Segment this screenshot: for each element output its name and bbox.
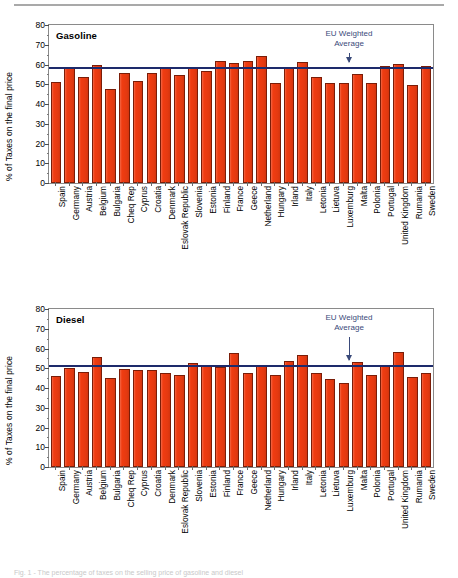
gasoline-x-tick-mark — [288, 182, 289, 186]
gasoline-y-tick-minor — [47, 35, 49, 36]
diesel-y-tick-minor — [47, 378, 49, 379]
diesel-x-tick-mark — [315, 466, 316, 470]
gasoline-x-axis-label: Bulgaria — [113, 186, 121, 216]
gasoline-x-tick-mark — [192, 182, 193, 186]
gasoline-x-tick-mark — [425, 182, 426, 186]
bar — [188, 363, 199, 467]
gasoline-x-tick-mark — [343, 182, 344, 186]
gasoline-y-tick-minor — [47, 173, 49, 174]
gasoline-x-axis-label: Belgium — [99, 186, 107, 216]
bar — [366, 375, 377, 467]
gasoline-x-axis-label: Luxemburg — [346, 186, 354, 228]
gasoline-x-axis-label: Letonia — [319, 186, 327, 213]
bar — [78, 77, 89, 183]
bar — [325, 83, 336, 183]
diesel-y-tick-label: 40 — [36, 384, 45, 393]
diesel-x-axis-label: Croatia — [154, 470, 162, 497]
diesel-y-tick-label: 20 — [36, 423, 45, 432]
diesel-y-tick-minor — [47, 457, 49, 458]
gasoline-x-axis-label: Austria — [85, 186, 93, 212]
gasoline-x-tick-mark — [247, 182, 248, 186]
gasoline-x-tick-mark — [151, 182, 152, 186]
gasoline-x-axis-label: Eslovak Republic — [181, 186, 189, 250]
gasoline-x-axis-label: Finland — [223, 186, 231, 213]
diesel-x-tick-mark — [343, 466, 344, 470]
diesel-y-tick-minor — [47, 319, 49, 320]
gasoline-eu-weighted-average-line — [49, 67, 433, 69]
bar — [147, 73, 158, 183]
bar — [105, 89, 116, 183]
annotation-line-1: EU Weighted — [304, 29, 394, 39]
diesel-x-tick-mark — [69, 466, 70, 470]
gasoline-y-tick-mark — [45, 124, 49, 125]
diesel-y-tick-label: 30 — [36, 404, 45, 413]
diesel-x-axis-label: United Kingdom — [401, 470, 409, 529]
diesel-x-tick-mark — [151, 466, 152, 470]
diesel-x-axis-label: Netherland — [264, 470, 272, 511]
gasoline-y-tick-label: 40 — [36, 100, 45, 109]
gasoline-y-tick-minor — [47, 114, 49, 115]
bar — [393, 64, 404, 183]
bar — [407, 85, 418, 183]
bar — [284, 68, 295, 183]
diesel-x-tick-mark — [55, 466, 56, 470]
diesel-x-tick-mark — [219, 466, 220, 470]
diesel-x-tick-mark — [384, 466, 385, 470]
diesel-x-axis-label: Rumania — [415, 470, 423, 503]
gasoline-y-tick-label: 60 — [36, 60, 45, 69]
gasoline-x-axis-label: Lietuva — [332, 186, 340, 213]
bar — [297, 62, 308, 183]
diesel-y-tick-mark — [45, 467, 49, 468]
top-divider-rule — [14, 4, 444, 6]
figure-caption: Fig. 1 - The percentage of taxes on the … — [14, 569, 243, 576]
gasoline-y-tick-minor — [47, 74, 49, 75]
bar — [297, 355, 308, 467]
bar — [92, 65, 103, 183]
bar — [147, 370, 158, 467]
bar — [201, 365, 212, 468]
gasoline-x-axis-label: Germany — [72, 186, 80, 220]
bar — [311, 373, 322, 467]
diesel-x-tick-mark — [206, 466, 207, 470]
bar — [215, 367, 226, 467]
bar — [133, 370, 144, 467]
bar — [160, 373, 171, 467]
diesel-plot-inner: EU WeightedAverage — [49, 309, 433, 467]
gasoline-y-tick-label: 80 — [36, 21, 45, 30]
gasoline-eu-average-arrow-icon — [349, 53, 350, 62]
diesel-y-tick-mark — [45, 309, 49, 310]
diesel-x-tick-mark — [137, 466, 138, 470]
diesel-x-axis-label: Spain — [58, 470, 66, 491]
diesel-eu-weighted-average-line — [49, 365, 433, 367]
diesel-y-tick-mark — [45, 447, 49, 448]
diesel-x-tick-mark — [261, 466, 262, 470]
gasoline-x-axis-label: Rumania — [415, 186, 423, 219]
gasoline-y-tick-mark — [45, 183, 49, 184]
gasoline-x-axis-label: Estonia — [209, 186, 217, 214]
bar — [229, 63, 240, 183]
gasoline-y-tick-minor — [47, 55, 49, 56]
diesel-y-tick-mark — [45, 408, 49, 409]
gasoline-x-tick-mark — [69, 182, 70, 186]
gasoline-x-tick-mark — [206, 182, 207, 186]
gasoline-y-tick-mark — [45, 163, 49, 164]
bar — [380, 366, 391, 467]
diesel-x-tick-mark — [233, 466, 234, 470]
bar — [92, 357, 103, 467]
gasoline-plot-inner: EU WeightedAverage — [49, 25, 433, 183]
bar — [270, 83, 281, 183]
gasoline-x-axis-label: Denmark — [168, 186, 176, 220]
gasoline-y-tick-minor — [47, 94, 49, 95]
gasoline-y-tick-label: 20 — [36, 139, 45, 148]
gasoline-y-tick-minor — [47, 134, 49, 135]
bar — [243, 373, 254, 467]
gasoline-x-axis-label: Cyprus — [140, 186, 148, 212]
gasoline-y-tick-mark — [45, 65, 49, 66]
diesel-y-tick-minor — [47, 437, 49, 438]
bar — [160, 68, 171, 183]
diesel-x-axis-label: Germany — [72, 470, 80, 504]
diesel-x-axis-label: Cheq Rep — [127, 470, 135, 507]
bar — [366, 83, 377, 183]
gasoline-y-tick-minor — [47, 153, 49, 154]
diesel-x-axis-label: Bulgaria — [113, 470, 121, 500]
